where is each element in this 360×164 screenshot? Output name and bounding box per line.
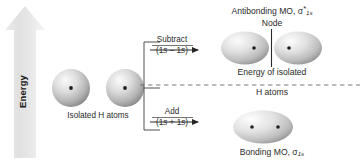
energy-axis-label: Energy [17, 64, 28, 120]
bonding-mo-text: Bonding MO, [240, 147, 293, 157]
reference-line-label-2: H atoms [256, 88, 288, 97]
bonding-mo-label: Bonding MO, σ1s [240, 148, 304, 158]
subtract-expr-close: ) [185, 46, 188, 55]
mo-diagram-canvas: Energy Isolated H atoms Subtract (1s – 1… [0, 0, 360, 164]
isolated-h-atom-1 [52, 69, 90, 107]
antibonding-mo-text: Antibonding MO, [231, 6, 297, 16]
antibonding-subscript: 1s [306, 9, 313, 16]
diagram-graphics [0, 0, 360, 164]
subtract-expression: (1s – 1s) [156, 47, 188, 56]
bonding-subscript: 1s [298, 150, 305, 157]
antibonding-orbital [221, 29, 322, 67]
subtract-label: Subtract [157, 36, 188, 45]
reference-line-label-1: Energy of isolated [238, 68, 307, 77]
subtract-expr-op: – 1 [167, 46, 181, 55]
isolated-h-atoms-caption: Isolated H atoms [67, 112, 128, 121]
add-label: Add [165, 108, 180, 117]
isolated-h-atom-2 [106, 69, 144, 107]
add-expr-close: ) [185, 118, 188, 127]
node-label: Node [262, 19, 283, 28]
antibonding-mo-label: Antibonding MO, σ*1s [231, 5, 312, 17]
add-expression: (1s + 1s) [156, 119, 188, 128]
bonding-orbital [233, 111, 293, 144]
add-expr-op: + 1 [167, 118, 181, 127]
